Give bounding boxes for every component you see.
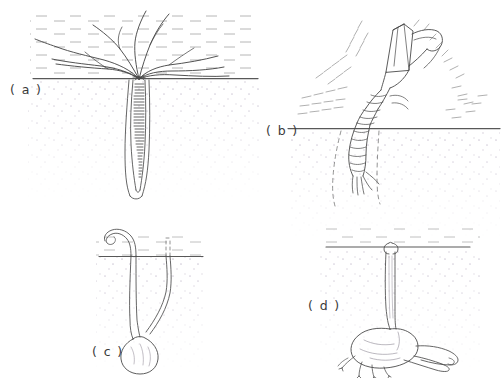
panel-b-raptorial-appendages [381, 24, 442, 90]
panel-a-sediment-stipple [28, 79, 260, 199]
figure-illustration [0, 0, 502, 378]
panel-label-b: ( b ) [266, 123, 299, 138]
panel-label-d: ( d ) [308, 298, 341, 313]
panel-a-water-hatching [30, 12, 258, 78]
panel-label-a: ( a ) [10, 82, 42, 97]
panel-d-sediment-stipple [320, 248, 480, 368]
panel-b-cephalothorax [357, 88, 408, 125]
panel-b-sediment-stipple [288, 129, 500, 237]
panel-d-illustration [320, 228, 480, 378]
panel-d-water-hatching [322, 228, 480, 247]
panel-label-c: ( c ) [92, 344, 124, 359]
panel-b-illustration [288, 20, 500, 237]
panel-a-illustration [28, 11, 260, 199]
figure-canvas: ( a ) ( b ) ( c ) ( d ) [0, 0, 502, 378]
